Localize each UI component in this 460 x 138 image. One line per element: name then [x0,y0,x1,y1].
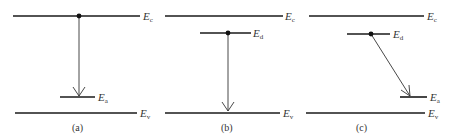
label-ea: Ea [429,91,441,105]
energy-band-diagram: Ec Ea Ev (a) Ec Ed Ev (b) Ec Ed Ea Ev [0,0,460,138]
label-ev: Ev [139,107,151,121]
electron-dot-icon [226,31,231,36]
label-ed: Ed [392,28,404,42]
caption-a: (a) [72,122,83,134]
panel-b: Ec Ed Ev (b) [165,10,295,134]
label-ed: Ed [252,27,264,41]
label-ec: Ec [426,10,437,24]
electron-dot-icon [369,32,374,37]
panel-a: Ec Ea Ev (a) [13,10,153,134]
caption-c: (c) [356,122,367,134]
label-ea: Ea [97,91,109,105]
label-ec: Ec [142,10,153,24]
label-ev: Ev [427,107,439,121]
label-ec: Ec [284,10,295,24]
electron-dot-icon [77,14,82,19]
caption-b: (b) [221,122,233,134]
label-ev: Ev [282,107,294,121]
panel-c: Ec Ed Ea Ev (c) [306,10,441,134]
transition-arrow-shaft [371,34,410,96]
